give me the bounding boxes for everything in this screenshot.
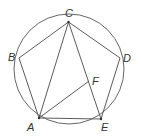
segment-DE bbox=[101, 58, 120, 119]
vertex-dots bbox=[38, 21, 102, 120]
label-B: B bbox=[8, 51, 15, 63]
segment-BC bbox=[19, 22, 69, 58]
segment-CD bbox=[69, 22, 121, 58]
segment-AB bbox=[19, 58, 39, 118]
segment-AC bbox=[39, 22, 69, 118]
vertex-dot-A bbox=[38, 117, 40, 119]
label-C: C bbox=[65, 7, 73, 19]
segment-CE bbox=[69, 22, 102, 119]
pentagon-circle-diagram: A B C D E F bbox=[0, 0, 141, 137]
vertex-dot-C bbox=[67, 21, 69, 23]
circumscribed-circle bbox=[14, 14, 124, 124]
segment-EA bbox=[39, 118, 101, 119]
label-F: F bbox=[92, 75, 100, 87]
vertex-dot-E bbox=[100, 118, 102, 120]
segments bbox=[19, 22, 120, 119]
label-E: E bbox=[101, 121, 109, 133]
label-D: D bbox=[123, 52, 131, 64]
label-A: A bbox=[26, 121, 34, 133]
segment-AF bbox=[39, 81, 89, 118]
